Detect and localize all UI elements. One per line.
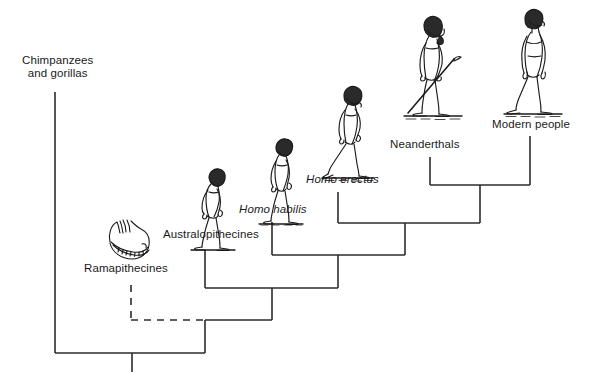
label-neanderthals: Neanderthals xyxy=(390,138,460,151)
figure-neanderthal xyxy=(398,12,468,122)
label-chimpanzees-and-gorillas: Chimpanzees and gorillas xyxy=(22,54,93,80)
label-homo-erectus: Homo erectus xyxy=(306,173,379,186)
figure-homo-erectus xyxy=(320,82,378,182)
label-modern-people: Modern people xyxy=(492,118,570,131)
label-homo-habilis: Homo habilis xyxy=(239,203,307,216)
figure-jaw-fossil xyxy=(98,212,158,264)
label-ramapithecines: Ramapithecines xyxy=(84,262,168,275)
label-australopithecines: Australopithecines xyxy=(163,228,259,241)
cladogram-diagram: Chimpanzees and gorillas Ramapithecines … xyxy=(0,0,590,385)
figure-modern-human xyxy=(498,6,566,118)
